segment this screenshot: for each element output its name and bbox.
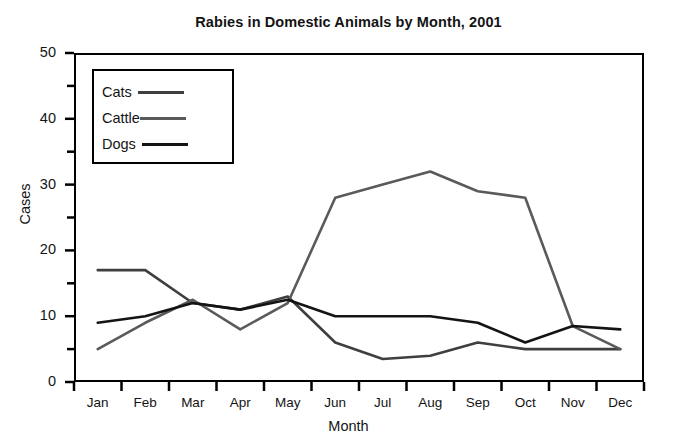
y-axis-tick-label: 50	[16, 45, 56, 60]
legend-item-label: Cats	[102, 84, 132, 100]
legend-item-cats[interactable]: Cats	[102, 79, 230, 105]
legend-color-swatch	[140, 117, 186, 120]
legend-item-label: Cattle	[102, 110, 140, 126]
x-axis-title: Month	[0, 418, 697, 434]
legend-item-label: Dogs	[102, 136, 136, 152]
y-axis-tick-label: 40	[16, 111, 56, 126]
legend-item-dogs[interactable]: Dogs	[102, 131, 230, 157]
y-axis-tick-label: 10	[16, 308, 56, 323]
series-line-dogs	[98, 300, 621, 343]
y-axis-title: Cases	[17, 159, 33, 249]
chart-legend: CatsCattleDogs	[92, 69, 234, 164]
y-axis-tick-label: 0	[16, 374, 56, 389]
legend-color-swatch	[142, 143, 188, 146]
x-axis-tick-label: Dec	[590, 396, 650, 410]
legend-color-swatch	[138, 91, 184, 94]
series-line-cattle	[98, 171, 621, 349]
chart-container: Rabies in Domestic Animals by Month, 200…	[0, 0, 697, 446]
chart-canvas	[0, 0, 697, 446]
legend-item-cattle[interactable]: Cattle	[102, 105, 230, 131]
series-line-cats	[98, 270, 621, 359]
